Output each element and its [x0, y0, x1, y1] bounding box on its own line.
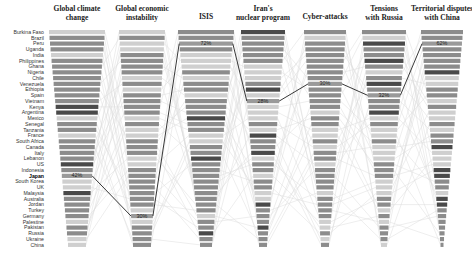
- country-bar: [128, 174, 155, 178]
- country-bar: [124, 99, 161, 103]
- connector-line: [155, 187, 200, 239]
- country-bar: [60, 157, 93, 161]
- connector-line: [396, 141, 435, 187]
- country-bar: [305, 47, 344, 51]
- country-bar: [182, 65, 231, 69]
- country-bar: [424, 59, 461, 63]
- country-bar: [199, 237, 212, 241]
- country-bar: [200, 243, 212, 247]
- connector-line: [151, 239, 200, 245]
- connector-line: [271, 67, 307, 199]
- country-bar: [180, 47, 232, 51]
- country-bar: [126, 139, 158, 143]
- country-bar: [318, 203, 332, 207]
- column-0: Global climatechange42%: [49, 4, 105, 247]
- country-bar: [435, 185, 449, 189]
- country-bar: [245, 82, 280, 86]
- country-bar: [429, 116, 455, 120]
- country-bar: [246, 88, 280, 92]
- country-bar: [304, 36, 345, 40]
- country-bar: [244, 70, 281, 74]
- country-bar: [54, 88, 100, 92]
- country-bar: [439, 226, 445, 230]
- country-bar: [317, 191, 333, 195]
- highlight-connector: [279, 84, 308, 101]
- country-bar: [304, 30, 346, 34]
- country-bar: [376, 185, 392, 189]
- country-bar: [53, 76, 101, 80]
- connector-line: [390, 159, 433, 211]
- country-bar: [123, 88, 161, 92]
- chart-columns: Global climatechange42%Global economicin…: [49, 4, 472, 247]
- country-bar: [54, 82, 101, 86]
- country-bar: [119, 30, 165, 34]
- country-bar: [370, 116, 399, 120]
- country-bar: [52, 59, 103, 63]
- country-bar: [195, 191, 218, 195]
- country-bar: [193, 180, 218, 184]
- country-bar: [315, 162, 336, 166]
- connector-line: [102, 38, 119, 67]
- country-bar: [316, 185, 333, 189]
- country-bar: [127, 145, 158, 149]
- country-bar: [255, 197, 271, 201]
- connector-line: [398, 118, 432, 153]
- country-bar: [127, 157, 156, 161]
- country-bar: [320, 226, 331, 230]
- highlight-percent-label: 32%: [379, 92, 390, 98]
- country-bar: [256, 208, 270, 212]
- country-bar: [124, 105, 160, 109]
- country-bar: [125, 116, 160, 120]
- country-bar: [306, 53, 344, 57]
- country-bar: [432, 151, 452, 155]
- country-bar: [181, 59, 231, 63]
- country-bar: [185, 99, 227, 103]
- country-bar: [312, 134, 337, 138]
- highlight-percent-label: 30%: [137, 213, 148, 219]
- country-bar: [129, 185, 155, 189]
- connector-line: [276, 141, 321, 239]
- country-bar: [50, 36, 105, 40]
- country-bar: [252, 157, 275, 161]
- country-bar: [121, 59, 163, 63]
- country-bar: [249, 122, 277, 126]
- connector-line: [405, 44, 434, 176]
- connector-line: [272, 187, 320, 233]
- country-bar: [188, 122, 225, 126]
- country-bar: [120, 42, 164, 46]
- connector-line: [279, 101, 310, 107]
- column-title: change: [66, 13, 89, 22]
- country-bar: [251, 151, 275, 155]
- country-bar: [310, 105, 340, 109]
- country-bar: [312, 128, 338, 132]
- country-bar: [58, 134, 96, 138]
- country-bar: [377, 197, 391, 201]
- country-bar: [426, 82, 459, 86]
- connector-line: [160, 101, 186, 113]
- country-bar: [198, 220, 215, 224]
- country-bar: [189, 139, 222, 143]
- country-bar: [319, 214, 332, 218]
- country-bar: [363, 36, 406, 40]
- country-bar: [378, 208, 390, 212]
- country-bar: [437, 208, 446, 212]
- column-1: Global economicinstability30%: [115, 4, 169, 247]
- country-bar: [259, 243, 267, 247]
- country-label: China: [30, 242, 44, 248]
- country-bar: [430, 134, 453, 138]
- country-bar: [315, 174, 334, 178]
- country-bar: [68, 243, 86, 247]
- country-bar: [428, 105, 456, 109]
- connector-line: [335, 176, 380, 228]
- highlight-percent-label: 72%: [201, 40, 212, 46]
- country-bar: [254, 180, 273, 184]
- country-bar: [309, 93, 341, 97]
- country-bar: [56, 111, 98, 115]
- connector-line: [273, 176, 319, 222]
- column-title: ISIS: [199, 12, 213, 21]
- country-bar: [132, 231, 152, 235]
- country-bar: [197, 214, 215, 218]
- country-bar: [317, 197, 332, 201]
- country-bar: [188, 128, 224, 132]
- country-bar: [130, 197, 154, 201]
